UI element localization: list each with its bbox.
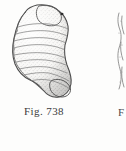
figure-caption: Fig. 738 [0,105,88,117]
scanned-page: Fig. 738 F [0,0,126,151]
adjacent-caption-fragment: F [118,106,126,118]
specimen-illustration [9,2,75,102]
aperture-dot [61,13,64,15]
adjacent-figure-fragment [112,12,126,90]
